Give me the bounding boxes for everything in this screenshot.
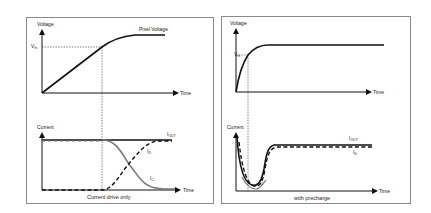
voltage-axis-label: Voltage <box>37 22 54 27</box>
time-axis-arrow-icon <box>173 90 179 96</box>
panel-caption: Current drive only <box>87 195 130 201</box>
current-axis-arrow-icon <box>39 132 45 138</box>
ic-label: IC <box>150 176 154 183</box>
voltage-axis-arrow-icon <box>233 28 239 34</box>
time-axis-label: Time <box>183 188 194 193</box>
id-label: ID <box>353 150 357 157</box>
vth-label: Vth <box>234 52 240 59</box>
current-drive-waveforms <box>27 18 213 203</box>
time-axis-label: Time <box>180 91 191 96</box>
current-axis-label: Current <box>227 125 244 130</box>
with-precharge-panel: Voltage Time Vth Current Time IOUT ID IC… <box>221 16 411 204</box>
current-drive-only-panel: Voltage Time Vth Pixel Voltage Current T… <box>26 17 214 204</box>
id-label: ID <box>147 149 151 156</box>
pixel-voltage-label: Pixel Voltage <box>139 27 168 32</box>
vth-label: Vth <box>31 44 37 51</box>
current-axis-arrow-icon <box>233 132 239 138</box>
voltage-axis-label: Voltage <box>230 21 247 26</box>
voltage-axis-arrow-icon <box>39 29 45 35</box>
precharge-waveforms <box>222 17 410 203</box>
id-curve <box>42 141 172 190</box>
time-axis-label: Time <box>379 189 390 194</box>
pixel-voltage-curve <box>236 45 384 92</box>
time-axis-label: Time <box>373 90 384 95</box>
ic-label: IC <box>259 180 263 187</box>
iout-label: IOUT <box>167 132 176 139</box>
iout-curve <box>237 137 372 185</box>
time-axis-arrow-icon <box>366 89 372 95</box>
time-axis-arrow-icon <box>372 188 378 194</box>
iout-label: IOUT <box>349 136 358 143</box>
pixel-voltage-curve <box>42 35 165 93</box>
panel-caption: with precharge <box>294 196 330 202</box>
time-axis-arrow-icon <box>175 187 181 193</box>
current-axis-label: Current <box>37 125 54 130</box>
ic-curve <box>102 140 175 189</box>
